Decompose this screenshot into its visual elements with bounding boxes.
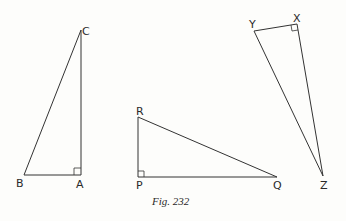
geometry-figure: C B A R P Q Y X Z Fig. 232 xyxy=(0,0,346,221)
triangle-pqr: R P Q xyxy=(136,105,282,192)
triangle-abc: C B A xyxy=(16,25,90,191)
triangle-abc-edges xyxy=(24,30,81,175)
right-angle-mark-p xyxy=(138,171,144,177)
label-a: A xyxy=(76,178,84,191)
triangle-pqr-edges xyxy=(138,117,277,177)
label-z: Z xyxy=(320,179,328,192)
label-p: P xyxy=(136,179,143,192)
figure-caption: Fig. 232 xyxy=(151,195,190,207)
triangle-xyz-edges xyxy=(254,24,323,176)
label-q: Q xyxy=(273,179,282,192)
figure-canvas: C B A R P Q Y X Z Fig. 232 xyxy=(0,0,346,221)
label-x: X xyxy=(293,12,301,25)
label-c: C xyxy=(82,25,90,38)
triangle-xyz: Y X Z xyxy=(248,12,328,192)
right-angle-mark-a xyxy=(74,168,81,175)
label-r: R xyxy=(136,105,144,118)
label-b: B xyxy=(16,177,24,190)
label-y: Y xyxy=(248,18,256,31)
